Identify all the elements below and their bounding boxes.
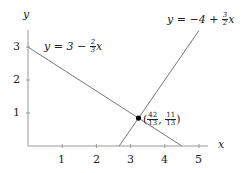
line-1-equation: y = 3 − 23x (44, 39, 102, 54)
x-tick-label: 4 (161, 154, 168, 165)
y-axis-label: y (23, 9, 29, 20)
intersection-label: (4213, 1113) (143, 112, 180, 127)
y-tick-label: 2 (13, 74, 20, 85)
x-tick-label: 1 (58, 154, 65, 165)
x-tick-label: 3 (127, 154, 134, 165)
line-2-equation: y = −4 + 32x (167, 12, 235, 27)
intersection-point (136, 116, 141, 121)
y-tick-label: 1 (13, 107, 20, 118)
x-tick-label: 5 (195, 154, 202, 165)
x-axis-label: x (218, 139, 224, 150)
y-tick-label: 3 (13, 41, 20, 52)
line-2 (119, 31, 199, 147)
line-1 (28, 47, 182, 146)
x-tick-label: 2 (93, 154, 100, 165)
